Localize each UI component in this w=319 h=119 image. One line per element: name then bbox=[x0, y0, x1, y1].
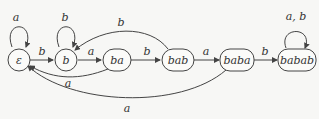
label-ba-eps: a bbox=[65, 77, 72, 90]
state-label: baba bbox=[223, 54, 250, 67]
label-b-b: b bbox=[61, 11, 68, 24]
edge-baba-eps bbox=[28, 66, 226, 98]
automaton-diagram: a b b a b a b a a b a, b ε b ba bab baba… bbox=[0, 0, 319, 119]
state-bab: bab bbox=[162, 49, 194, 71]
label-bab-baba: a bbox=[203, 45, 210, 58]
label-babab-babab: a, b bbox=[286, 10, 307, 23]
label-eps-eps: a bbox=[13, 11, 20, 24]
edge-eps-eps bbox=[10, 27, 28, 47]
state-label: b bbox=[62, 54, 69, 67]
label-ba-bab: b bbox=[143, 45, 150, 58]
state-label: bab bbox=[168, 54, 189, 67]
edge-b-b bbox=[57, 27, 75, 47]
state-ba: ba bbox=[103, 49, 131, 71]
label-b-ba: a bbox=[88, 45, 95, 58]
edge-babab-babab bbox=[285, 32, 307, 49]
state-baba: baba bbox=[220, 49, 254, 71]
state-b: b bbox=[55, 49, 77, 71]
state-eps: ε bbox=[8, 49, 30, 71]
state-label: ba bbox=[110, 54, 124, 67]
label-bab-b: b bbox=[117, 16, 124, 29]
state-babab: babab bbox=[278, 49, 316, 71]
label-eps-b: b bbox=[38, 45, 45, 58]
state-label: babab bbox=[280, 54, 314, 67]
label-baba-eps: a bbox=[124, 102, 131, 115]
state-label: ε bbox=[16, 54, 22, 67]
label-baba-babab: b bbox=[261, 45, 268, 58]
